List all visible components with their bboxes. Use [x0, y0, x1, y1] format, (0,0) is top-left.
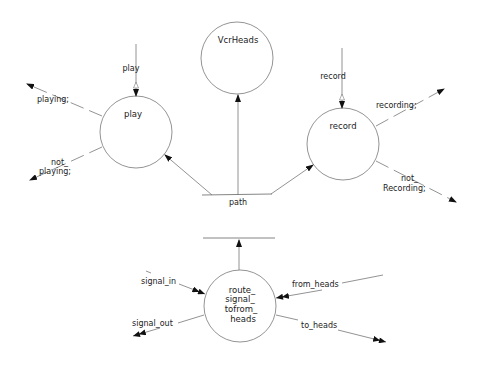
play-circle — [100, 96, 172, 168]
control-triangle-icon — [340, 94, 345, 100]
flow-label: play — [123, 64, 140, 73]
dfd-canvas: play play playing; not_ playing; VcrHead… — [0, 0, 482, 366]
control-triangle-icon — [134, 82, 139, 88]
vcrheads-circle — [201, 22, 273, 94]
route-title-line2: signal_ — [225, 294, 255, 304]
flow-label-line1: not_ — [51, 158, 69, 167]
flow-tail — [146, 271, 151, 273]
flow-not-playing[interactable]: not_ playing; — [30, 147, 102, 180]
flow-label-line1: not_ — [401, 174, 419, 183]
flow-arrow — [338, 330, 386, 342]
vcrheads-title: VcrHeads — [218, 35, 259, 45]
flow-to-heads[interactable]: to_heads — [276, 315, 386, 342]
flow-tail — [178, 315, 204, 323]
flow-path-to-record[interactable] — [271, 165, 313, 194]
route-title-line4: heads — [230, 314, 256, 324]
flow-tail — [276, 315, 298, 320]
flow-arrow — [179, 284, 205, 294]
flow-arrow — [133, 328, 160, 336]
flow-recording[interactable]: recording; — [376, 89, 444, 126]
flow-label: signal_in — [141, 277, 176, 286]
process-record[interactable]: record — [307, 108, 379, 180]
play-title: play — [124, 109, 142, 119]
flow-label: record — [320, 72, 346, 81]
flow-label-line2: Recording; — [383, 184, 426, 193]
flow-record-in[interactable]: record — [320, 48, 346, 108]
flow-label: to_heads — [301, 321, 337, 330]
flow-from-heads[interactable]: from_heads — [276, 275, 383, 298]
flow-play-in[interactable]: play — [123, 44, 140, 96]
flow-path-to-play[interactable] — [165, 155, 212, 195]
route-title-line3: tofrom_ — [225, 304, 258, 314]
store-path[interactable]: path — [202, 194, 272, 207]
store-line — [202, 194, 272, 195]
flow-signal-out[interactable]: signal_out — [132, 315, 204, 336]
process-route-signal-tofrom-heads[interactable]: route_ signal_ tofrom_ heads — [204, 270, 276, 342]
flow-signal-in[interactable]: signal_in — [141, 271, 205, 294]
flow-label-line2: playing; — [39, 167, 71, 176]
process-play[interactable]: play — [100, 96, 172, 168]
flow-label: recording; — [376, 101, 417, 110]
flow-label: playing; — [37, 95, 69, 104]
flow-label: from_heads — [292, 280, 339, 289]
flow-playing[interactable]: playing; — [27, 84, 102, 116]
store-label: path — [229, 198, 247, 207]
flow-tail — [342, 275, 383, 283]
record-title: record — [329, 121, 356, 131]
record-circle — [307, 108, 379, 180]
flow-label: signal_out — [132, 319, 173, 328]
flow-arrow — [276, 290, 322, 298]
flow-not-recording[interactable]: not_ Recording; — [376, 161, 456, 202]
process-vcrheads[interactable]: VcrHeads — [201, 22, 273, 94]
